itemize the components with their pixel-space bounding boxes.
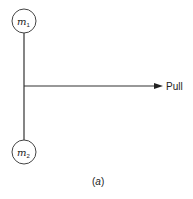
pull-label: Pull [166,81,183,92]
figure-caption: (a) [92,176,104,187]
mass-m2: m2 [12,140,36,164]
pull-arrow [24,83,163,89]
mass-m1: m1 [12,9,36,33]
pull-diagram: m1 m2 Pull (a) [0,0,193,199]
arrowhead-icon [154,83,163,89]
